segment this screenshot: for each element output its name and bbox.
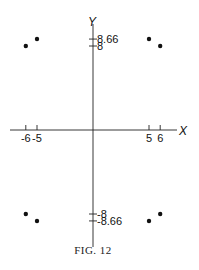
data-point [158,44,162,48]
x-tick-label: -6 [21,132,31,144]
y-tick-label: -8.66 [97,215,122,227]
data-point [24,44,28,48]
figure-caption: FIG. 12 [0,244,186,256]
scatter-figure: -6-5568.668-8-8.66 X Y [0,0,199,270]
data-point [24,212,28,216]
x-axis-label: X [178,124,188,138]
x-tick-label: -5 [32,132,42,144]
data-point [35,219,39,223]
x-tick-label: 5 [146,132,152,144]
data-point [35,37,39,41]
y-axis-label: Y [88,15,97,29]
y-tick-label: 8 [97,40,103,52]
x-tick-label: 6 [157,132,163,144]
data-point [158,212,162,216]
data-point [147,219,151,223]
data-point [147,37,151,41]
